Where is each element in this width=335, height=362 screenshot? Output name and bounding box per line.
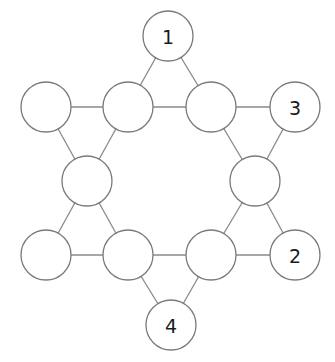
node-upper-right-inner: [186, 82, 236, 132]
node-bottom: 4: [146, 300, 196, 350]
node-circle: [186, 230, 236, 280]
node-circle: [230, 156, 280, 206]
node-label: 1: [162, 26, 174, 48]
node-lower-left-outer: [21, 230, 71, 280]
node-circle: [62, 156, 112, 206]
node-circle: [103, 82, 153, 132]
hexagram-diagram: 1324: [0, 0, 335, 362]
node-lower-right-outer: 2: [270, 230, 320, 280]
node-circle: [186, 82, 236, 132]
node-lower-left-inner: [103, 230, 153, 280]
node-circle: [103, 230, 153, 280]
node-upper-left-inner: [103, 82, 153, 132]
node-middle-left: [62, 156, 112, 206]
node-upper-right-outer: 3: [270, 82, 320, 132]
node-label: 3: [289, 97, 301, 119]
node-label: 4: [165, 315, 177, 337]
node-circle: [21, 230, 71, 280]
nodes-layer: 1324: [21, 11, 320, 350]
node-upper-left-outer: [21, 82, 71, 132]
node-middle-right: [230, 156, 280, 206]
node-lower-right-inner: [186, 230, 236, 280]
node-circle: [21, 82, 71, 132]
node-label: 2: [289, 245, 301, 267]
node-top: 1: [143, 11, 193, 61]
